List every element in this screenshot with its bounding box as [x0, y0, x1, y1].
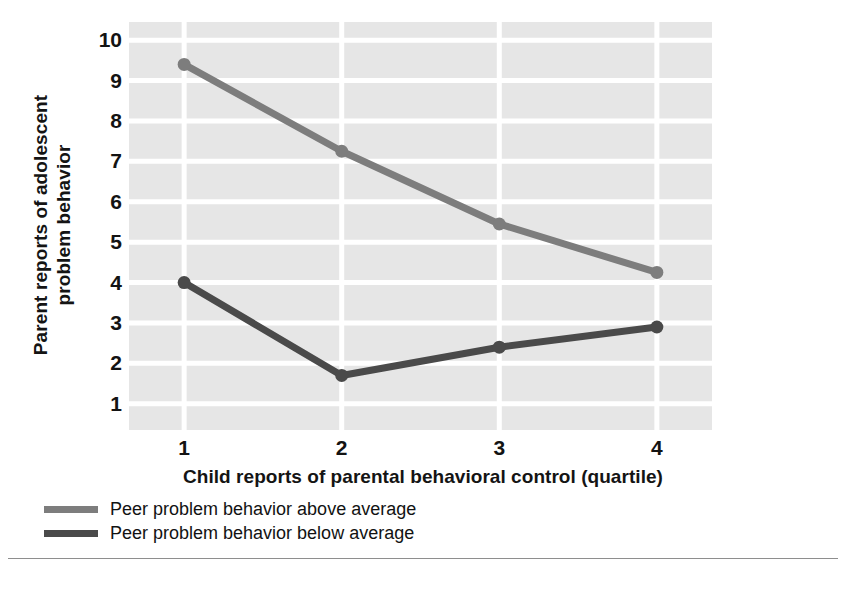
y-axis-title-line-2: problem behavior [52, 25, 75, 425]
legend-color-swatch [44, 506, 98, 513]
y-tick-label: 5 [82, 231, 122, 252]
y-tick-label: 9 [82, 70, 122, 91]
y-axis-title-line-1: Parent reports of adolescent [29, 25, 52, 425]
y-tick-label: 8 [82, 110, 122, 131]
data-point [650, 266, 663, 279]
plot-canvas [129, 22, 712, 430]
data-point [493, 217, 506, 230]
plot-area [129, 22, 712, 430]
y-tick-label: 7 [82, 150, 122, 171]
y-tick-label: 6 [82, 191, 122, 212]
legend-label: Peer problem behavior below average [110, 522, 414, 544]
y-axis-tick-labels: 10987654321 [78, 22, 122, 430]
legend-color-swatch [44, 530, 98, 537]
legend-item: Peer problem behavior below average [44, 521, 564, 545]
x-tick-label: 4 [637, 436, 677, 460]
data-point [335, 145, 348, 158]
data-point [178, 58, 191, 71]
legend-label: Peer problem behavior above average [110, 498, 416, 520]
y-tick-label: 1 [82, 393, 122, 414]
y-axis-title: Parent reports of adolescent problem beh… [29, 25, 75, 425]
x-axis-title: Child reports of parental behavioral con… [0, 466, 846, 488]
y-tick-label: 3 [82, 312, 122, 333]
data-point [650, 320, 663, 333]
x-axis-tick-labels: 1234 [129, 436, 712, 464]
data-point [493, 341, 506, 354]
chart-legend: Peer problem behavior above averagePeer … [44, 497, 564, 545]
bottom-divider [8, 558, 838, 559]
x-tick-label: 2 [322, 436, 362, 460]
data-point [335, 369, 348, 382]
y-tick-label: 10 [82, 29, 122, 50]
figure-line-chart: Parent reports of adolescent problem beh… [0, 0, 846, 590]
data-point [178, 276, 191, 289]
y-tick-label: 4 [82, 272, 122, 293]
legend-item: Peer problem behavior above average [44, 497, 564, 521]
y-tick-label: 2 [82, 352, 122, 373]
x-tick-label: 3 [479, 436, 519, 460]
x-tick-label: 1 [164, 436, 204, 460]
